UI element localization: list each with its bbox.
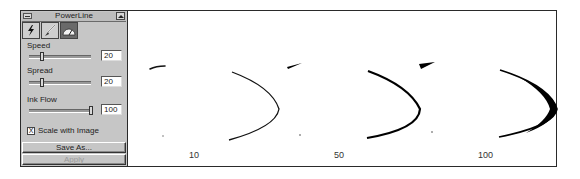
lightning-icon [24,24,38,37]
brush-icon [43,24,57,37]
apply-button[interactable]: Apply [22,154,126,165]
spread-slider-thumb[interactable] [40,78,44,87]
speed-slider-thumb[interactable] [40,52,44,61]
ink-flow-label: Ink Flow [27,95,57,104]
spread-slider[interactable] [29,78,91,86]
ink-flow-slider-thumb[interactable] [89,106,93,115]
panel-titlebar[interactable]: PowerLine [22,12,126,22]
ink-flow-slider[interactable] [29,106,91,114]
lightning-tool-button[interactable] [22,22,40,39]
panel-title: PowerLine [34,11,114,21]
sample-label-100: 100 [478,150,493,160]
system-menu-button[interactable] [23,13,32,19]
scale-with-image-label[interactable]: Scale with Image [38,126,99,136]
ink-flow-value-input[interactable]: 100 [101,104,122,115]
roll-up-button[interactable] [116,12,125,20]
save-as-button[interactable]: Save As... [22,142,126,153]
brush-tool-button[interactable] [41,22,59,39]
gauge-icon [62,24,76,37]
powerline-panel: PowerLine Speed 20 Spread [20,10,128,167]
gauge-tool-button[interactable] [60,22,78,39]
speed-value-input[interactable]: 20 [101,50,122,61]
speed-label: Speed [27,41,50,50]
ink-flow-slider-track [29,109,91,113]
speed-slider-track [29,55,91,59]
spread-label: Spread [27,66,53,75]
sample-label-10: 10 [189,150,199,160]
sample-label-50: 50 [334,150,344,160]
speed-slider[interactable] [29,52,91,60]
scale-with-image-checkbox[interactable]: X [27,127,35,135]
spread-slider-track [29,81,91,85]
spread-value-input[interactable]: 20 [101,76,122,87]
tool-buttons [22,22,79,39]
